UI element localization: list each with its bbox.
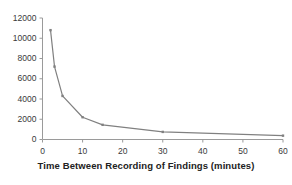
y-tick-label: 12000 [13, 14, 37, 23]
data-point-marker [101, 124, 103, 126]
x-axis-title: Time Between Recording of Findings (minu… [0, 160, 292, 171]
chart-container: 020004000600080001000012000 010203040506… [0, 0, 292, 185]
x-tick-label: 40 [188, 147, 218, 156]
y-tick-label: 2000 [18, 115, 37, 124]
x-tick-label: 50 [228, 147, 258, 156]
y-tick-label: 0 [32, 135, 37, 144]
data-point-marker [53, 65, 55, 67]
y-tick-label: 8000 [18, 54, 37, 63]
x-tick-label: 60 [268, 147, 292, 156]
y-tick-label: 6000 [18, 74, 37, 83]
x-tick-label: 30 [148, 147, 178, 156]
x-tick-label: 0 [28, 147, 58, 156]
x-tick-label: 20 [108, 147, 138, 156]
data-point-marker [282, 134, 284, 136]
data-series-line [51, 30, 283, 135]
y-tick-label: 10000 [13, 34, 37, 43]
x-tick-label: 10 [68, 147, 98, 156]
chart-plot-area [0, 0, 292, 185]
data-series-markers [49, 29, 284, 137]
data-point-marker [162, 131, 164, 133]
data-point-marker [49, 29, 51, 31]
data-point-marker [81, 116, 83, 118]
y-tick-label: 4000 [18, 95, 37, 104]
data-point-marker [61, 95, 63, 97]
